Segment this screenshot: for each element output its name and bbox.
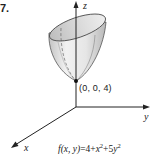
z-axis-label: z: [83, 0, 87, 11]
paraboloid-surface: [46, 8, 108, 81]
y-axis-label: y: [144, 111, 148, 122]
function-formula: f(x, y)=4+x2+5y2: [58, 144, 121, 154]
paraboloid-figure: 7.: [0, 0, 154, 156]
x-axis-label: x: [24, 142, 28, 153]
formula-y-exponent: 2: [117, 142, 120, 149]
x-axis: [11, 107, 76, 148]
paraboloid-plot: [0, 0, 154, 156]
vertex-point-marker: [74, 79, 78, 83]
y-axis: [76, 105, 150, 110]
vertex-point-label: (0, 0, 4): [79, 83, 112, 93]
formula-lhs: f(x, y): [58, 144, 80, 154]
